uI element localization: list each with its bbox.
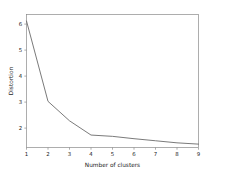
x-tick-label-8: 9 [197, 151, 201, 157]
elbow-plot-figure: 2 3 4 5 6 1 2 3 4 5 6 7 8 9 [0, 0, 239, 188]
x-tick-label-1: 2 [46, 151, 49, 157]
x-tick-label-0: 1 [25, 151, 28, 157]
y-tick-label-1: 3 [19, 99, 22, 105]
x-tick-label-2: 3 [68, 151, 71, 157]
x-axis-title: Number of clusters [85, 162, 140, 168]
figure-background [0, 0, 239, 188]
x-tick-label-6: 7 [154, 151, 157, 157]
y-tick-label-2: 4 [19, 73, 23, 79]
y-tick-label-4: 6 [19, 21, 23, 27]
x-tick-label-4: 5 [111, 151, 114, 157]
y-axis-title: Distortion [8, 66, 14, 95]
x-tick-label-7: 8 [175, 151, 179, 157]
chart-canvas: 2 3 4 5 6 1 2 3 4 5 6 7 8 9 [0, 0, 239, 188]
x-tick-label-3: 4 [89, 151, 93, 157]
x-tick-label-5: 6 [132, 151, 136, 157]
y-tick-label-3: 5 [19, 47, 22, 53]
y-tick-label-0: 2 [19, 125, 22, 131]
